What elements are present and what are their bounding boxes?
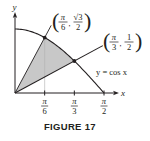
tick-numerator: π xyxy=(102,96,107,106)
fraction-denominator: 6 xyxy=(61,22,65,32)
figure-17-diagram: y x π6π3π2 (π6,√32)(π3,12) y = cos x FIG… xyxy=(0,0,150,141)
x-tick-label: π2 xyxy=(101,96,108,116)
point-label-lower: (π3,12) xyxy=(103,28,142,53)
comma: , xyxy=(69,19,71,28)
fraction-denominator: 3 xyxy=(112,42,116,52)
tick-numerator: π xyxy=(43,96,48,106)
point-upper xyxy=(43,36,47,40)
x-tick-label: π3 xyxy=(71,96,78,116)
point-lower xyxy=(72,59,76,63)
curve-label: y = cos x xyxy=(96,67,128,77)
figure-caption: FIGURE 17 xyxy=(44,121,96,132)
tick-denominator: 2 xyxy=(102,106,106,116)
x-axis-label: x xyxy=(120,88,125,98)
point-labels: (π6,√32)(π3,12) xyxy=(52,8,142,53)
point-label-upper: (π6,√32) xyxy=(52,8,91,33)
y-axis-label: y xyxy=(12,2,17,12)
x-tick-label: π6 xyxy=(41,96,48,116)
tick-denominator: 3 xyxy=(72,106,76,116)
fraction-numerator: π xyxy=(61,12,66,22)
fraction-denominator: 2 xyxy=(76,22,80,32)
tick-denominator: 6 xyxy=(43,106,47,116)
fraction-numerator: √3 xyxy=(74,12,83,22)
close-paren: ) xyxy=(135,28,142,53)
comma: , xyxy=(120,39,122,48)
tick-numerator: π xyxy=(72,96,77,106)
close-paren: ) xyxy=(84,8,91,33)
open-paren: ( xyxy=(52,8,59,33)
fraction-denominator: 2 xyxy=(127,42,131,52)
x-tick-labels: π6π3π2 xyxy=(41,96,107,116)
fraction-numerator: 1 xyxy=(127,32,131,42)
fraction-numerator: π xyxy=(112,32,117,42)
open-paren: ( xyxy=(103,28,110,53)
